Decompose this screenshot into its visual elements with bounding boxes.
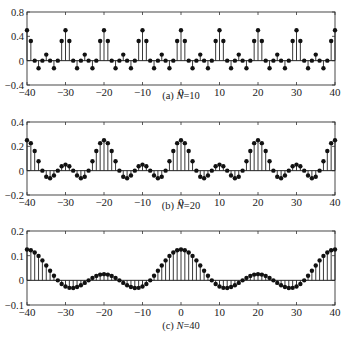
stem-marker: [152, 274, 156, 278]
stem-marker: [163, 58, 167, 62]
stem-marker: [98, 272, 102, 276]
stem-marker: [90, 159, 94, 163]
stem-marker: [294, 284, 298, 288]
stem-marker: [333, 247, 337, 251]
stem-marker: [90, 276, 94, 280]
stem-marker: [40, 258, 44, 262]
stem-marker: [117, 278, 121, 282]
stem-marker: [106, 39, 110, 43]
stem-marker: [148, 168, 152, 172]
x-tick-label: 10: [214, 306, 226, 318]
stem-marker: [306, 66, 310, 70]
stem-marker: [25, 138, 29, 142]
stem-marker: [133, 58, 137, 62]
x-tick-label: −20: [95, 306, 113, 318]
stem-marker: [217, 284, 221, 288]
stem-marker: [117, 168, 121, 172]
stem-marker: [129, 285, 133, 289]
stem-marker: [325, 58, 329, 62]
y-tick-label: −0.1: [5, 300, 24, 311]
stem-marker: [287, 286, 291, 290]
stem-marker: [264, 58, 268, 62]
stem-marker: [83, 52, 87, 56]
stem-marker: [194, 258, 198, 262]
stem-marker: [67, 164, 71, 168]
stem-marker: [225, 58, 229, 62]
stem-marker: [314, 52, 318, 56]
stem-marker: [260, 39, 264, 43]
stem-marker: [310, 176, 314, 180]
stem-marker: [256, 272, 260, 276]
stem-marker: [221, 286, 225, 290]
stem-marker: [175, 141, 179, 145]
stem-marker: [206, 274, 210, 278]
y-tick-label: 0.8: [11, 7, 24, 18]
stem-marker: [79, 176, 83, 180]
stem-marker: [152, 173, 156, 177]
stem-marker: [202, 176, 206, 180]
stem-marker: [190, 66, 194, 70]
stem-marker: [275, 52, 279, 56]
stem-marker: [248, 58, 252, 62]
stem-marker: [187, 149, 191, 153]
stem-marker: [183, 141, 187, 145]
stem-marker: [144, 164, 148, 168]
stem-marker: [306, 173, 310, 177]
stem-marker: [325, 149, 329, 153]
stem-marker: [171, 58, 175, 62]
stem-marker: [121, 281, 125, 285]
stem-marker: [75, 66, 79, 70]
stem-marker: [67, 286, 71, 290]
stem-marker: [52, 66, 56, 70]
stem-marker: [294, 28, 298, 32]
x-tick-label: 30: [291, 86, 303, 98]
stem-marker: [290, 164, 294, 168]
stem-marker: [175, 248, 179, 252]
stem-marker: [110, 58, 114, 62]
stem-marker: [202, 58, 206, 62]
stem-marker: [140, 284, 144, 288]
stem-marker: [163, 168, 167, 172]
stem-marker: [29, 248, 33, 252]
stem-marker: [29, 39, 33, 43]
stem-marker: [314, 263, 318, 267]
stem-marker: [298, 164, 302, 168]
stem-marker: [136, 164, 140, 168]
stem-marker: [33, 58, 37, 62]
stem-marker: [194, 168, 198, 172]
stem-marker: [75, 285, 79, 289]
stem-marker: [237, 52, 241, 56]
stem-marker: [86, 58, 90, 62]
stem-marker: [267, 66, 271, 70]
stem-marker: [287, 168, 291, 172]
stem-marker: [252, 39, 256, 43]
stem-marker: [94, 274, 98, 278]
y-tick-label: 0: [19, 275, 24, 286]
stem-marker: [244, 276, 248, 280]
stem-marker: [63, 284, 67, 288]
stem-marker: [86, 168, 90, 172]
stem-marker: [287, 58, 291, 62]
stem-marker: [106, 272, 110, 276]
stem-marker: [225, 168, 229, 172]
stem-marker: [317, 168, 321, 172]
stem-marker: [237, 175, 241, 179]
y-tick-label: 0.2: [11, 226, 24, 237]
stem-marker: [52, 173, 56, 177]
stem-marker: [314, 175, 318, 179]
stem-marker: [140, 28, 144, 32]
stem-marker: [260, 272, 264, 276]
x-tick-label: 40: [330, 196, 342, 208]
stem-marker: [90, 66, 94, 70]
y-tick-label: 0: [19, 166, 24, 177]
stem-marker: [125, 58, 129, 62]
stem-marker: [171, 149, 175, 153]
stem-marker: [190, 159, 194, 163]
stem-marker: [71, 58, 75, 62]
stem-marker: [252, 141, 256, 145]
stem-marker: [252, 272, 256, 276]
stem-marker: [260, 141, 264, 145]
stem-marker: [271, 168, 275, 172]
stem-marker: [198, 175, 202, 179]
x-tick-label: 20: [253, 306, 265, 318]
